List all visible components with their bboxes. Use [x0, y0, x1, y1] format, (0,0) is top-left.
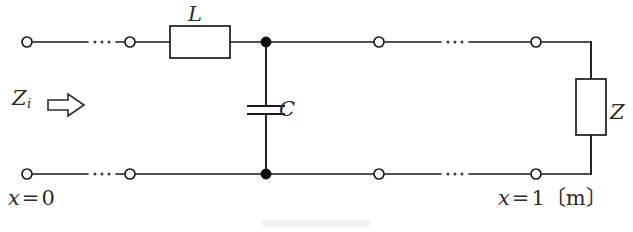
input-impedance-arrow-icon: [48, 94, 84, 116]
circuit-figure: L C Z Zi x=0 x=1〔m〕: [0, 0, 633, 232]
load-branch-group: [576, 42, 606, 174]
junction-dot-bottom: [261, 169, 271, 179]
position-right-label: x=1〔m〕: [498, 188, 607, 209]
ellipsis-dot-bottom-right-3: [461, 173, 464, 176]
terminal-bottom-right-outer[interactable]: [531, 169, 541, 179]
position-right-variable: x: [498, 186, 510, 210]
ellipsis-dot-bottom-left-2: [101, 173, 104, 176]
top-rail-group: [33, 41, 591, 44]
ellipsis-dot-top-left-2: [101, 41, 104, 44]
inductor-box: [170, 26, 230, 58]
ellipsis-dot-top-left-3: [108, 41, 111, 44]
capacitor-label: C: [279, 99, 295, 120]
terminal-top-right-inner[interactable]: [374, 37, 384, 47]
junction-dot-top: [261, 37, 271, 47]
ellipsis-dot-bottom-right-1: [447, 173, 450, 176]
position-left-variable: x: [8, 186, 20, 210]
terminal-top-left-outer[interactable]: [22, 37, 32, 47]
input-impedance-subscript: i: [27, 96, 31, 111]
ellipsis-dot-bottom-right-2: [454, 173, 457, 176]
position-left-relation: =: [22, 186, 40, 210]
ellipsis-dot-bottom-left-3: [108, 173, 111, 176]
terminal-bottom-right-inner[interactable]: [374, 169, 384, 179]
position-left-value: 0: [41, 186, 54, 210]
terminal-bottom-left-outer[interactable]: [22, 169, 32, 179]
ellipsis-dot-top-right-1: [447, 41, 450, 44]
ellipsis-dot-top-right-2: [454, 41, 457, 44]
input-impedance-symbol: Z: [12, 86, 27, 110]
position-right-unit: 〔m〕: [545, 186, 607, 210]
position-right-value: 1: [531, 186, 544, 210]
ellipsis-dot-top-right-3: [461, 41, 464, 44]
position-right-relation: =: [512, 186, 530, 210]
page-artifact-smudge: [262, 220, 370, 227]
position-left-label: x=0: [8, 188, 55, 209]
ellipsis-dot-bottom-left-1: [94, 173, 97, 176]
load-box: [576, 79, 606, 135]
load-label: Z: [610, 102, 625, 123]
input-impedance-label: Zi: [12, 88, 31, 110]
terminal-bottom-left-inner[interactable]: [125, 169, 135, 179]
terminal-top-right-outer[interactable]: [531, 37, 541, 47]
bottom-rail-group: [33, 173, 591, 176]
ellipsis-dot-top-left-1: [94, 41, 97, 44]
inductor-label: L: [188, 4, 202, 25]
terminal-top-left-inner[interactable]: [125, 37, 135, 47]
